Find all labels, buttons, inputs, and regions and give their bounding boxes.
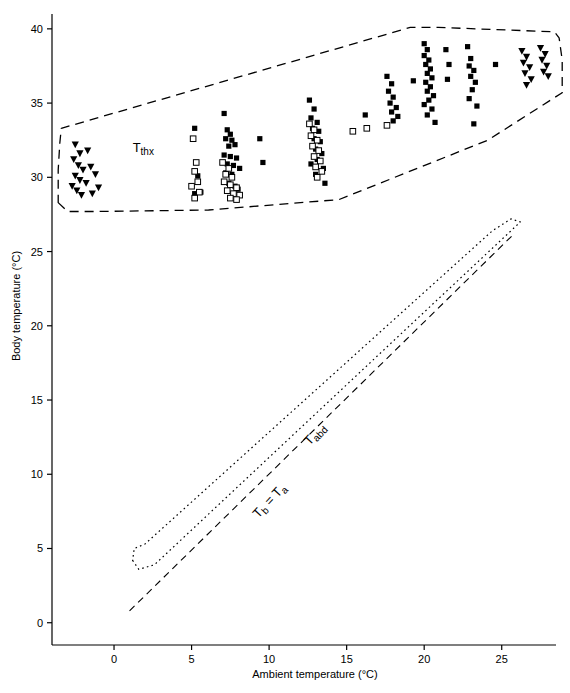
marker-filled-triangle xyxy=(70,156,77,163)
marker-filled-square xyxy=(471,121,476,126)
marker-filled-triangle xyxy=(520,60,527,67)
x-tick-label: 25 xyxy=(496,653,508,665)
marker-filled-square xyxy=(471,68,476,73)
marker-filled-square xyxy=(423,80,428,85)
y-tick-label: 30 xyxy=(31,171,43,183)
marker-filled-triangle xyxy=(545,73,552,80)
marker-open-square xyxy=(234,185,240,191)
marker-open-square xyxy=(314,137,320,143)
marker-filled-square xyxy=(363,112,368,117)
marker-filled-square xyxy=(386,89,391,94)
marker-filled-square xyxy=(422,41,427,46)
y-axis-title: Body temperature (°C) xyxy=(10,226,22,386)
marker-filled-square xyxy=(426,98,431,103)
marker-filled-square xyxy=(422,102,427,107)
marker-filled-square xyxy=(226,144,231,149)
marker-filled-triangle xyxy=(542,51,549,58)
marker-open-square xyxy=(189,183,195,189)
x-tick-label: 0 xyxy=(111,653,117,665)
marker-filled-square xyxy=(228,132,233,137)
marker-filled-triangle xyxy=(84,147,91,154)
marker-filled-square xyxy=(237,166,242,171)
marker-open-square xyxy=(228,182,234,188)
marker-open-square xyxy=(190,136,196,142)
marker-filled-square xyxy=(391,95,396,100)
marker-filled-triangle xyxy=(543,63,550,70)
marker-open-square xyxy=(220,160,226,166)
marker-filled-square xyxy=(308,115,313,120)
marker-open-square xyxy=(192,169,198,175)
marker-filled-square xyxy=(429,106,434,111)
marker-open-square xyxy=(310,143,316,149)
reference-lines xyxy=(130,234,515,611)
marker-filled-triangle xyxy=(76,177,83,184)
marker-filled-triangle xyxy=(92,171,99,178)
y-tick-label: 20 xyxy=(31,320,43,332)
marker-filled-square xyxy=(257,136,262,141)
marker-filled-square xyxy=(395,114,400,119)
marker-filled-square xyxy=(225,127,230,132)
marker-filled-square xyxy=(425,89,430,94)
equality-line-label: Tb = Ta xyxy=(249,480,290,522)
marker-open-square xyxy=(228,195,234,201)
marker-filled-triangle xyxy=(528,76,535,83)
y-tick-label: 25 xyxy=(31,246,43,258)
marker-filled-square xyxy=(468,56,473,61)
marker-filled-triangle xyxy=(518,48,525,55)
marker-filled-square xyxy=(422,53,427,58)
marker-filled-square xyxy=(423,62,428,67)
x-tick-label: 5 xyxy=(189,653,195,665)
y-tick-label: 35 xyxy=(31,97,43,109)
tb-equals-ta-line xyxy=(130,234,515,611)
plot-canvas: 05101520253035400510152025 TthxTabdTb = … xyxy=(0,0,570,693)
marker-open-square xyxy=(313,164,319,170)
marker-open-square xyxy=(229,175,235,181)
marker-filled-triangle xyxy=(537,45,544,52)
marker-filled-triangle xyxy=(76,150,83,157)
thorax-envelope-label: Tthx xyxy=(133,140,154,157)
marker-filled-square xyxy=(493,62,498,67)
marker-filled-triangle xyxy=(523,82,530,89)
marker-filled-square xyxy=(315,120,320,125)
marker-filled-square xyxy=(229,138,234,143)
marker-filled-square xyxy=(445,77,450,82)
marker-filled-square xyxy=(394,105,399,110)
marker-filled-square xyxy=(232,142,237,147)
marker-open-square xyxy=(311,127,317,133)
marker-filled-square xyxy=(222,111,227,116)
marker-filled-square xyxy=(425,112,430,117)
axis-tick-labels: 05101520253035400510152025 xyxy=(31,23,508,665)
marker-filled-square xyxy=(425,71,430,76)
marker-filled-triangle xyxy=(79,167,86,174)
data-points xyxy=(69,41,552,202)
marker-filled-square xyxy=(384,74,389,79)
marker-filled-square xyxy=(429,75,434,80)
marker-filled-square xyxy=(260,160,265,165)
marker-open-square xyxy=(197,189,203,195)
marker-filled-triangle xyxy=(83,180,90,187)
marker-filled-square xyxy=(431,93,436,98)
marker-filled-square xyxy=(474,103,479,108)
marker-open-square xyxy=(234,197,240,203)
marker-open-square xyxy=(193,160,199,166)
marker-filled-square xyxy=(470,87,475,92)
marker-open-square xyxy=(224,188,230,194)
scatter-plot-figure: 05101520253035400510152025 TthxTabdTb = … xyxy=(0,0,570,693)
marker-open-square xyxy=(223,172,229,178)
abdomen-envelope xyxy=(133,219,521,569)
marker-open-square xyxy=(226,166,232,172)
axes xyxy=(52,14,556,645)
marker-open-square xyxy=(316,148,322,154)
marker-filled-square xyxy=(387,100,392,105)
marker-filled-triangle xyxy=(78,192,85,199)
abdomen-envelope-label: Tabd xyxy=(301,420,330,450)
abdomen-temperature-open-squares xyxy=(189,121,390,202)
marker-open-square xyxy=(307,121,313,127)
x-axis-title: Ambient temperature (°C) xyxy=(150,668,480,680)
marker-filled-triangle xyxy=(521,70,528,77)
marker-filled-square xyxy=(473,80,478,85)
marker-filled-square xyxy=(234,155,239,160)
marker-filled-square xyxy=(307,98,312,103)
marker-filled-square xyxy=(322,181,327,186)
marker-filled-square xyxy=(467,96,472,101)
